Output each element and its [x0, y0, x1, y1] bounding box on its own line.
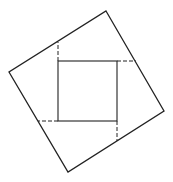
geometry-diagram [0, 0, 173, 182]
inner-square [58, 61, 117, 121]
dashed-extension-lines [38, 42, 136, 141]
outer-tilted-square [9, 11, 164, 172]
